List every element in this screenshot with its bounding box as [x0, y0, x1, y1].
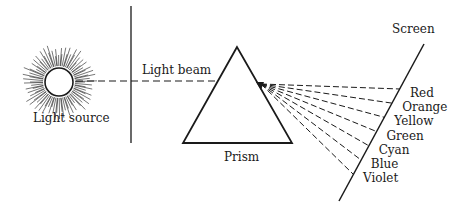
- spectrum-label-yellow: Yellow: [394, 114, 433, 128]
- spectrum-label-cyan: Cyan: [379, 143, 410, 157]
- spectrum-label-red: Red: [410, 86, 434, 100]
- spectrum-label-orange: Orange: [402, 100, 447, 114]
- prism-dispersion-diagram: Light source Light beam Prism Screen Red…: [0, 0, 461, 206]
- spectrum-label-blue: Blue: [371, 157, 399, 171]
- spectrum-label-violet: Violet: [363, 171, 398, 185]
- screen-label: Screen: [392, 22, 435, 36]
- light-source-icon: [45, 68, 73, 96]
- light-source-label: Light source: [33, 111, 110, 125]
- spectrum-label-green: Green: [387, 129, 424, 143]
- light-beam-label: Light beam: [142, 63, 211, 77]
- prism-label: Prism: [224, 150, 259, 164]
